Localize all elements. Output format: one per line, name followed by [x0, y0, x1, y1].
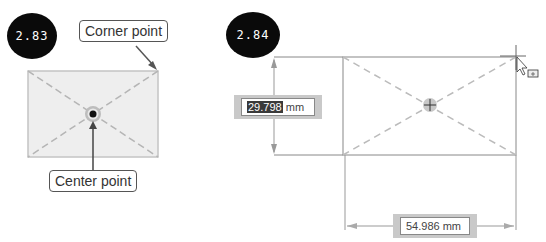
width-dimension-input[interactable]: 54.986 mm — [400, 217, 470, 235]
corner-point-callout: Corner point — [79, 20, 168, 42]
height-dimension-input[interactable]: 29.798 mm — [241, 98, 315, 116]
figure-badge-2-84: 2.84 — [226, 12, 280, 58]
height-dimension-box: 29.798 mm — [234, 95, 322, 119]
arrow-cursor-icon — [517, 57, 527, 75]
height-unit: mm — [283, 101, 304, 113]
height-value-selected: 29.798 — [247, 101, 283, 113]
center-point-callout: Center point — [49, 170, 137, 192]
width-dimension-box: 54.986 mm — [393, 214, 477, 238]
